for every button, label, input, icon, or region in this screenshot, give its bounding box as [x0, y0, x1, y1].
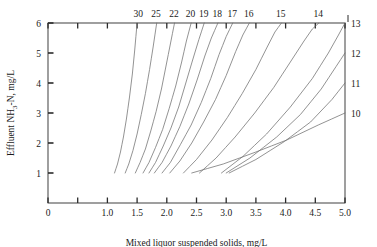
curve-label-16: 16: [244, 9, 254, 19]
curve-18: [154, 23, 218, 173]
chart-canvas: 01.01.52.02.53.03.54.04.55.0123456302522…: [0, 0, 377, 247]
curve-label-17: 17: [227, 9, 237, 19]
curve-label-20: 20: [186, 9, 196, 19]
curve-10: [192, 113, 345, 173]
y-axis-tick-label: 4: [36, 79, 41, 89]
curve-label-11: 11: [351, 79, 360, 89]
x-axis-tick-label: 5.0: [339, 208, 351, 218]
curve-19: [149, 23, 204, 173]
x-axis-tick-label: 0: [46, 208, 51, 218]
x-axis-tick-label: 2.0: [161, 208, 173, 218]
curve-25: [125, 23, 156, 173]
curve-label-18: 18: [213, 9, 223, 19]
curve-label-22: 22: [169, 9, 179, 19]
x-axis-tick-label: 3.0: [220, 208, 232, 218]
y-axis-title: Effluent NH3-N, mg/L: [6, 70, 19, 156]
x-axis-tick-label: 1.5: [131, 208, 143, 218]
curve-label-13: 13: [351, 19, 361, 29]
curve-20: [143, 23, 191, 173]
x-axis-tick-label: 3.5: [250, 208, 262, 218]
y-axis-tick-label: 5: [36, 49, 41, 59]
curve-label-25: 25: [151, 9, 161, 19]
curve-11: [229, 83, 345, 173]
y-axis-tick-label: 1: [36, 169, 41, 179]
curve-label-19: 19: [199, 9, 209, 19]
curve-15: [183, 23, 281, 173]
y-axis-tick-label: 2: [36, 139, 41, 149]
y-axis-tick-label: 3: [36, 109, 41, 119]
curve-label-12: 12: [351, 49, 361, 59]
curve-13: [221, 23, 345, 173]
y-axis-tick-label: 6: [36, 19, 41, 29]
x-axis-tick-label: 4.0: [280, 208, 292, 218]
curve-label-14: 14: [314, 9, 324, 19]
x-axis-tick-label: 1.0: [101, 208, 113, 218]
x-axis-tick-label: 4.5: [309, 208, 321, 218]
x-axis-title: Mixed liquor suspended solids, mg/L: [126, 238, 268, 247]
curve-label-10: 10: [351, 109, 361, 119]
chart-figure: 01.01.52.02.53.03.54.04.55.0123456302522…: [0, 0, 377, 247]
curve-label-15: 15: [276, 9, 286, 19]
x-axis-tick-label: 2.5: [191, 208, 203, 218]
curve-30: [115, 23, 138, 173]
curve-label-30: 30: [134, 9, 144, 19]
